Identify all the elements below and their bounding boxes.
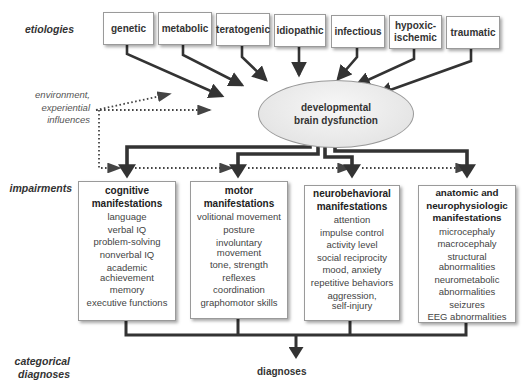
etiology-metabolic: metabolic bbox=[158, 12, 212, 45]
impairment-item: executive functions bbox=[79, 297, 175, 310]
impairment-item: nonverbal IQ bbox=[79, 249, 175, 262]
etiology-label: genetic bbox=[111, 23, 146, 35]
impairment-item: volitional movement bbox=[191, 211, 287, 224]
impairment-item: neurometabolic bbox=[419, 274, 515, 287]
impairment-item: structural abnormalities bbox=[419, 252, 515, 272]
impairment-item: mood, anxiety bbox=[305, 264, 399, 277]
impairment-item: memory bbox=[79, 284, 175, 297]
impairment-item: academic achievement bbox=[79, 263, 175, 283]
etiology-label: infectious bbox=[334, 26, 381, 38]
center-line1: developmental bbox=[301, 101, 371, 114]
title-line1: anatomic and bbox=[419, 187, 515, 200]
etiology-label: traumatic bbox=[450, 27, 495, 39]
impairment-item: language bbox=[79, 211, 175, 224]
etiology-label-line1: hypoxic- bbox=[395, 20, 436, 32]
impairment-item: social reciprocity bbox=[305, 252, 399, 265]
impairment-item: graphomotor skills bbox=[191, 297, 287, 310]
impairment-item: seizures bbox=[419, 299, 515, 312]
title-line2: manifestations bbox=[79, 197, 175, 210]
title-line2: neurophysiologic bbox=[419, 200, 515, 213]
etiology-hypoxic-ischemic: hypoxic- ischemic bbox=[389, 15, 442, 49]
impairment-item: attention bbox=[305, 214, 399, 227]
etiology-teratogenic: teratogenic bbox=[216, 13, 270, 46]
row-label-etiologies: etiologies bbox=[8, 23, 74, 35]
etiology-genetic: genetic bbox=[103, 12, 154, 45]
impairment-neurobehavioral: neurobehavioral manifestations attention… bbox=[304, 185, 400, 321]
impairment-item: impulse control bbox=[305, 227, 399, 240]
title-line2: manifestations bbox=[305, 200, 399, 213]
row-label-categorical-line2: diagnoses bbox=[4, 368, 70, 381]
etiology-label-line2: ischemic bbox=[394, 32, 437, 44]
impairment-title: anatomic and neurophysiologic manifestat… bbox=[419, 186, 515, 225]
impairment-item: abnormalities bbox=[419, 286, 515, 299]
impairment-anatomic-neurophysiologic: anatomic and neurophysiologic manifestat… bbox=[418, 185, 516, 323]
impairment-motor: motor manifestations volitional movement… bbox=[190, 181, 288, 319]
etiology-label: metabolic bbox=[162, 23, 209, 35]
impairment-item: problem-solving bbox=[79, 236, 175, 249]
impairment-title: cognitive manifestations bbox=[79, 182, 175, 210]
etiology-traumatic: traumatic bbox=[446, 16, 500, 49]
title-line1: motor bbox=[191, 184, 287, 197]
etiology-idiopathic: idiopathic bbox=[274, 14, 326, 47]
impairment-item: posture bbox=[191, 224, 287, 237]
note-line2: experiential bbox=[14, 102, 90, 115]
impairment-cognitive: cognitive manifestations language verbal… bbox=[78, 181, 176, 321]
impairment-item: verbal IQ bbox=[79, 224, 175, 237]
impairment-item: activity level bbox=[305, 239, 399, 252]
developmental-brain-dysfunction-node: developmental brain dysfunction bbox=[258, 80, 414, 148]
row-label-categorical-line1: categorical bbox=[4, 355, 70, 368]
title-line2: manifestations bbox=[191, 197, 287, 210]
impairment-item: microcephaly bbox=[419, 226, 515, 239]
impairment-item: aggression, self-injury bbox=[305, 291, 399, 311]
impairment-title: motor manifestations bbox=[191, 182, 287, 210]
row-label-categorical-diagnoses: categorical diagnoses bbox=[4, 355, 70, 381]
impairment-item: involuntary movement bbox=[191, 238, 287, 258]
center-line2: brain dysfunction bbox=[294, 114, 378, 127]
impairment-item: macrocephaly bbox=[419, 238, 515, 251]
impairment-title: neurobehavioral manifestations bbox=[305, 186, 399, 213]
note-line3: influences bbox=[14, 114, 90, 127]
diagnoses-label: diagnoses bbox=[257, 366, 306, 377]
impairment-item: EEG abnormalities bbox=[419, 311, 515, 324]
impairment-item: repetitive behaviors bbox=[305, 277, 399, 290]
row-label-impairments: impairments bbox=[4, 182, 72, 194]
environment-influences-note: environment, experiential influences bbox=[14, 89, 90, 127]
impairment-item: tone, strength bbox=[191, 259, 287, 272]
title-line1: cognitive bbox=[79, 184, 175, 197]
etiology-infectious: infectious bbox=[331, 15, 385, 48]
title-line1: neurobehavioral bbox=[305, 187, 399, 200]
note-line1: environment, bbox=[14, 89, 90, 102]
etiology-label: idiopathic bbox=[276, 25, 323, 37]
title-line3: manifestations bbox=[419, 212, 515, 225]
etiology-label: teratogenic bbox=[216, 24, 270, 36]
impairment-item: coordination bbox=[191, 284, 287, 297]
impairment-item: reflexes bbox=[191, 272, 287, 285]
